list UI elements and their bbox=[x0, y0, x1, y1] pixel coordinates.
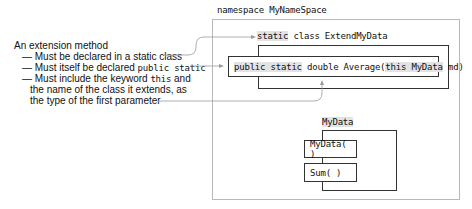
arrowhead-icon bbox=[320, 80, 324, 85]
arrow-static-class bbox=[164, 37, 252, 55]
arrow-this-parameter bbox=[158, 84, 322, 101]
connector-arrows bbox=[0, 0, 472, 209]
arrowhead-icon bbox=[219, 64, 224, 68]
arrowhead-icon bbox=[251, 35, 256, 39]
